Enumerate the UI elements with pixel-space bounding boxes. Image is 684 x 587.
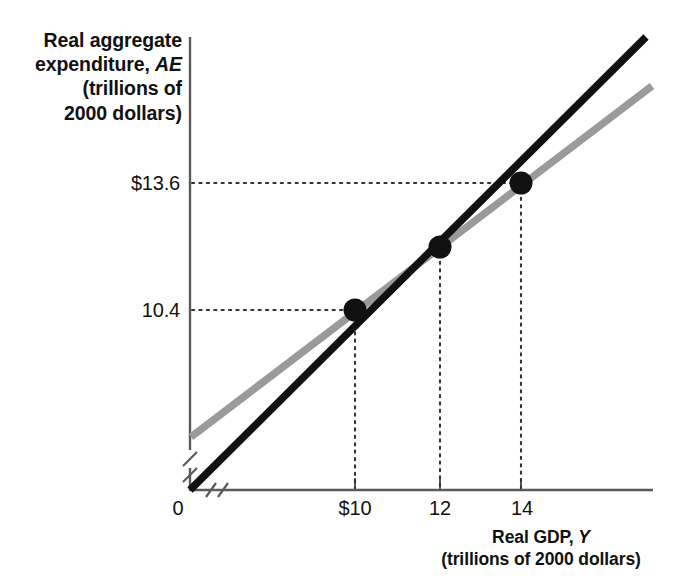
y-axis-break-mark-upper	[183, 452, 197, 466]
y-axis-title-line-1: Real aggregate	[44, 29, 182, 51]
chart-figure: Real aggregateexpenditure, AE(trillions …	[0, 0, 684, 587]
x-axis-title-line-2: (trillions of 2000 dollars)	[441, 549, 641, 569]
data-point-marker	[429, 236, 452, 259]
data-point-marker	[510, 172, 533, 195]
y-axis-title-symbol-ae: AE	[155, 53, 182, 75]
data-point-marker	[344, 299, 367, 322]
forty-five-degree-line	[190, 37, 646, 490]
x-axis-title-symbol-y: Y	[578, 527, 590, 547]
x-tick-label-12: 12	[395, 497, 485, 520]
y-tick-label-10-4: 10.4	[70, 299, 180, 322]
origin-label: 0	[133, 497, 223, 520]
y-axis-title: Real aggregateexpenditure, AE(trillions …	[0, 28, 182, 125]
y-axis-title-line-3: (trillions of	[83, 77, 182, 99]
x-tick-label-10: $10	[310, 497, 400, 520]
y-axis-title-line-4: 2000 dollars)	[64, 102, 182, 124]
x-tick-label-14: 14	[477, 497, 567, 520]
y-tick-label-13-6: $13.6	[70, 172, 180, 195]
x-axis-title-line-1: Real GDP,	[492, 527, 578, 547]
x-axis-title: Real GDP, Y(trillions of 2000 dollars)	[398, 527, 684, 570]
y-axis-title-line-2: expenditure,	[35, 53, 155, 75]
